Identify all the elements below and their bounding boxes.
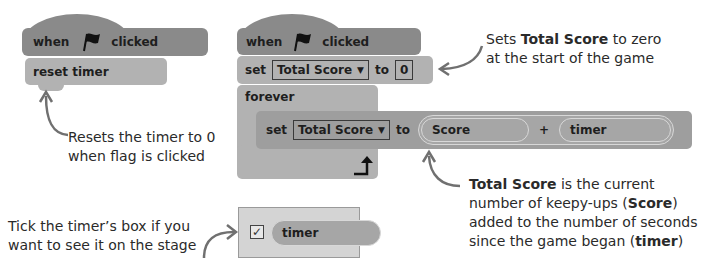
set-total-score-block[interactable]: set Total Score ▼ to 0 <box>237 56 433 84</box>
curved-arrow-icon <box>422 150 462 190</box>
inner-set-block[interactable]: set Total Score ▼ to Score + timer <box>256 111 692 149</box>
set-label: set <box>245 63 266 77</box>
timer-reporter[interactable]: timer <box>271 220 381 246</box>
when-label: when <box>246 35 282 49</box>
curved-arrow-icon <box>436 44 486 74</box>
addition-operator[interactable]: Score + timer <box>418 115 674 145</box>
reset-timer-label: reset timer <box>33 65 109 79</box>
total-score-annotation: Total Score is the current number of kee… <box>469 175 698 251</box>
flag-icon <box>81 32 103 52</box>
value-input[interactable]: 0 <box>395 60 413 80</box>
set-annotation: Sets Total Score to zero at the start of… <box>486 30 661 68</box>
timer-reporter[interactable]: timer <box>559 118 671 142</box>
when-flag-clicked-block[interactable]: when clicked <box>237 28 421 55</box>
timer-checkbox[interactable]: ✓ <box>250 225 264 239</box>
timer-annotation: Tick the timer’s box if you want to see … <box>8 217 196 255</box>
clicked-label: clicked <box>322 35 369 49</box>
set-label: set <box>266 123 287 137</box>
when-flag-clicked-block[interactable]: when clicked <box>22 28 208 56</box>
to-label: to <box>396 123 410 137</box>
curved-arrow-icon <box>200 220 240 260</box>
when-label: when <box>33 35 69 49</box>
plus-operator: + <box>539 123 549 137</box>
reset-annotation: Resets the timer to 0 when flag is click… <box>68 128 216 166</box>
reset-timer-block[interactable]: reset timer <box>25 58 167 85</box>
variable-dropdown[interactable]: Total Score ▼ <box>293 120 390 140</box>
to-label: to <box>375 63 389 77</box>
loop-arrow-icon <box>352 155 374 177</box>
clicked-label: clicked <box>111 35 158 49</box>
dropdown-arrow-icon: ▼ <box>378 125 385 135</box>
forever-label: forever <box>245 90 294 104</box>
flag-icon <box>292 32 314 52</box>
timer-panel: ✓ timer <box>238 207 360 258</box>
variable-dropdown[interactable]: Total Score ▼ <box>272 60 369 80</box>
curved-arrow-icon <box>38 90 68 140</box>
dropdown-arrow-icon: ▼ <box>357 65 364 75</box>
score-reporter[interactable]: Score <box>421 118 529 142</box>
